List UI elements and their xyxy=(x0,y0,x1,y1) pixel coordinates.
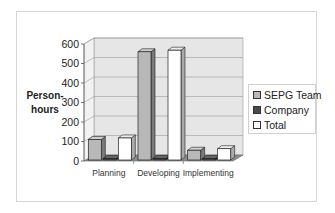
bar-planning-total xyxy=(118,135,135,160)
svg-text:100: 100 xyxy=(61,135,79,147)
legend-swatch-company-icon xyxy=(253,106,261,114)
chart-legend: SEPG Team Company Total xyxy=(248,84,316,134)
bar-planning-sepg-team xyxy=(88,137,105,160)
svg-text:0: 0 xyxy=(73,155,79,167)
legend-item-sepg-team: SEPG Team xyxy=(253,88,322,102)
bar-developing-total xyxy=(168,47,185,160)
legend-label-sepg: SEPG Team xyxy=(264,89,322,101)
y-axis-title-line2: hours xyxy=(22,103,68,117)
svg-text:200: 200 xyxy=(61,116,79,128)
svg-text:400: 400 xyxy=(61,77,79,89)
bar-developing-sepg-team xyxy=(138,49,155,160)
x-tick-planning: Planning xyxy=(92,168,125,178)
y-axis-title: Person- hours xyxy=(22,89,68,117)
y-axis-title-line1: Person- xyxy=(22,89,68,103)
x-tick-developing: Developing xyxy=(137,168,180,178)
legend-label-total: Total xyxy=(264,119,286,131)
legend-swatch-sepg-icon xyxy=(253,91,261,99)
bar-implementing-sepg-team xyxy=(188,147,205,160)
legend-swatch-total-icon xyxy=(253,121,261,129)
legend-item-total: Total xyxy=(253,118,286,132)
svg-text:600: 600 xyxy=(61,38,79,50)
bar-implementing-total xyxy=(218,146,235,160)
legend-label-company: Company xyxy=(264,104,309,116)
svg-text:500: 500 xyxy=(61,57,79,69)
legend-item-company: Company xyxy=(253,103,309,117)
x-tick-implementing: Implementing xyxy=(183,168,234,178)
